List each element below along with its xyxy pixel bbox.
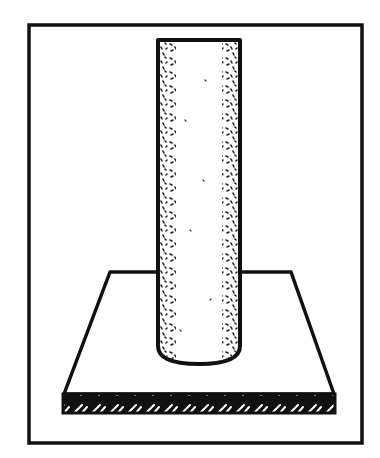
cylinder-rod xyxy=(158,40,240,364)
illustration-canvas xyxy=(0,0,380,458)
base-plate-edge xyxy=(63,394,335,413)
